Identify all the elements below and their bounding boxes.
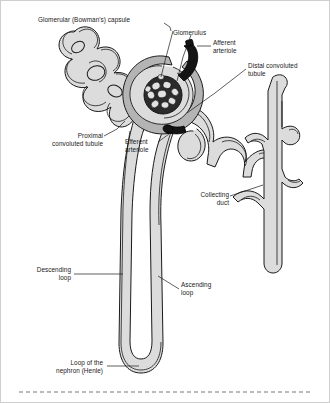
label-ascending-loop: Ascending loop — [181, 281, 233, 297]
label-loop-of-the-nephron-henle: Loop of the nephron (Henle) — [23, 359, 103, 375]
label-collecting-duct: Collecting duct — [187, 191, 229, 207]
label-descending-loop: Descending loop — [19, 266, 71, 282]
label-distal-convoluted-tubule: Distal convoluted tubule — [248, 62, 324, 78]
label-proximal-convoluted-tubule: Proximal convoluted tubule — [15, 132, 103, 148]
label-efferent-arteriole: Efferent arteriole — [125, 138, 181, 154]
figure-canvas: .tub{fill:#dcdcdc;stroke:#1a1a1a;stroke-… — [0, 0, 330, 403]
label-glomerular-bowmans-capsule: Glomerular (Bowman's) capsule — [38, 16, 178, 24]
label-glomerulus: Glomerulus — [173, 29, 233, 37]
label-afferent-arteriole: Afferent arteriole — [213, 39, 273, 55]
